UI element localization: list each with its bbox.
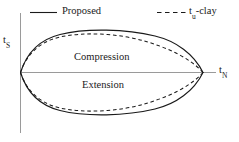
legend-label-proposed: Proposed (62, 5, 101, 16)
yield-surface-figure: Proposed tu-clay tS tN Compression Exten… (0, 0, 239, 142)
legend-tclay-subscript: u (192, 12, 196, 21)
legend-tclay-tail: -clay (196, 5, 217, 16)
plot-canvas (0, 0, 239, 142)
region-label-compression: Compression (74, 51, 129, 62)
region-label-extension: Extension (82, 79, 124, 90)
y-axis-label-subscript: S (6, 41, 10, 50)
legend-label-tclay: tu-clay (189, 5, 217, 19)
x-axis-label-subscript: N (222, 71, 227, 80)
x-axis-label: tN (219, 64, 227, 78)
y-axis-label: tS (3, 34, 10, 48)
